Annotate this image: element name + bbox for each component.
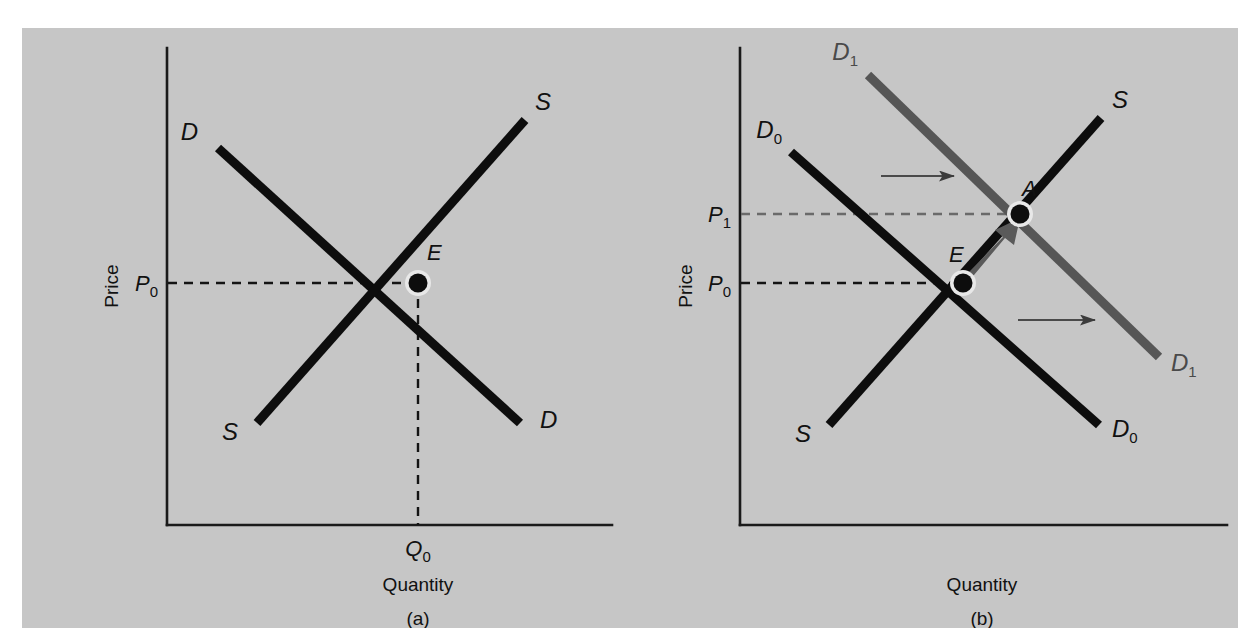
panel-b-chart: D1 D1 D0 D0 S S E A P1 P0 Price Quantity…: [622, 28, 1238, 628]
panel-a-supply-label-top: S: [535, 88, 551, 115]
panel-b-equilibrium-label-e: E: [949, 242, 964, 267]
panel-b-equilibrium-dot-e: [954, 274, 973, 293]
panel-b-demand1-label-top: D1: [832, 38, 858, 69]
figure-root: D D S S E P0 Q0 Price Quantity (a): [0, 0, 1246, 640]
figure-gray-panel: D D S S E P0 Q0 Price Quantity (a): [22, 28, 1238, 628]
panel-b-demand0-label-top: D0: [756, 116, 782, 147]
panel-a-chart: D D S S E P0 Q0 Price Quantity (a): [22, 28, 622, 628]
panel-b-supply-label-bottom: S: [795, 420, 811, 447]
panel-b-supply-label-top: S: [1112, 86, 1128, 113]
panel-b-price0-tick-label: P0: [708, 271, 731, 300]
panel-b-price1-tick-label: P1: [708, 202, 731, 231]
panel-b-equilibrium-label-a: A: [1020, 176, 1037, 201]
panel-a-equilibrium-label: E: [427, 240, 442, 265]
panel-b-demand1-label-bottom: D1: [1171, 349, 1197, 380]
panel-a-demand-curve: [218, 148, 520, 423]
panel-a-equilibrium-dot: [409, 274, 428, 293]
panel-b-y-axis-title: Price: [675, 264, 696, 307]
panel-a-price-tick-label: P0: [135, 271, 158, 300]
panel-b-x-axis-title: Quantity: [947, 574, 1018, 595]
panel-b-equilibrium-dot-a: [1011, 205, 1030, 224]
panel-a-caption: (a): [406, 608, 429, 628]
panel-a-quantity-tick-label: Q0: [405, 536, 430, 565]
panel-a-supply-curve: [257, 120, 525, 423]
panel-a-supply-label-bottom: S: [222, 418, 238, 445]
panel-a-demand-label-top: D: [181, 118, 198, 145]
panel-b-caption: (b): [970, 608, 993, 628]
panel-a-y-axis-title: Price: [101, 264, 122, 307]
panel-a-demand-label-bottom: D: [540, 406, 557, 433]
panel-b-demand0-label-bottom: D0: [1112, 415, 1138, 446]
panel-a-x-axis-title: Quantity: [383, 574, 454, 595]
